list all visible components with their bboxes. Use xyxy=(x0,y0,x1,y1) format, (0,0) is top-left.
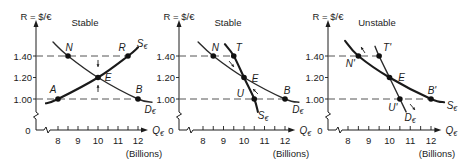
y-tick-label: 1.20 xyxy=(157,72,176,83)
x-axis-arrow-icon xyxy=(288,128,295,133)
panel-title: Stable xyxy=(72,17,99,28)
y-axis xyxy=(326,26,331,130)
x-unit-label: (Billions) xyxy=(419,148,455,159)
y-axis xyxy=(177,26,182,130)
y-tick-label: 1.40 xyxy=(157,51,176,62)
supply-curve-label: S€ xyxy=(137,38,149,50)
point-label: N' xyxy=(346,58,356,69)
x-axis-label-subscript: € xyxy=(453,129,458,136)
demand-curve-label-subscript: € xyxy=(300,108,305,115)
point-label: N xyxy=(65,42,73,53)
supply-curve-label-subscript: € xyxy=(264,114,269,121)
point-marker xyxy=(356,53,362,59)
supply-curve-label: S€ xyxy=(258,110,270,122)
panel-title: Unstable xyxy=(358,17,396,28)
x-axis-arrow-icon xyxy=(434,128,441,133)
y-tick-label: 1.20 xyxy=(306,72,325,83)
x-tick-label: 11 xyxy=(113,135,123,146)
chart-canvas: StableR = $/€Q€0(Billions)891011121.001.… xyxy=(0,0,471,167)
point-label: T' xyxy=(383,42,392,53)
y-axis-label: R = $/€ xyxy=(313,11,345,22)
point-label: B' xyxy=(428,85,438,96)
x-axis-label-subscript: € xyxy=(160,129,165,136)
y-tick-label: 1.00 xyxy=(306,94,325,105)
origin-label: 0 xyxy=(317,125,322,136)
panel-1: StableR = $/€Q€0(Billions)891011121.001.… xyxy=(14,11,165,159)
y-tick-label: 1.00 xyxy=(14,94,33,105)
direction-arrowhead-icon xyxy=(97,64,100,67)
x-axis-label-subscript: € xyxy=(307,129,312,136)
y-axis xyxy=(34,26,39,130)
point-label: R xyxy=(118,42,125,53)
point-label: E xyxy=(105,72,112,83)
demand-curve-label-main: D xyxy=(404,112,411,123)
point-marker xyxy=(65,53,71,59)
x-tick-label: 9 xyxy=(366,135,371,146)
point-label: U xyxy=(237,88,245,99)
x-tick-label: 12 xyxy=(426,135,437,146)
demand-curve-label: D€ xyxy=(404,112,416,124)
x-tick-label: 8 xyxy=(55,135,60,146)
origin-label: 0 xyxy=(25,125,30,136)
point-marker xyxy=(241,75,247,81)
point-marker xyxy=(210,53,216,59)
supply-curve-label: S€ xyxy=(447,100,459,112)
x-tick-label: 12 xyxy=(280,135,291,146)
demand-curve-label-subscript: € xyxy=(412,116,417,123)
x-tick-label: 11 xyxy=(260,135,270,146)
y-tick-label: 1.00 xyxy=(157,94,176,105)
x-tick-label: 11 xyxy=(405,135,415,146)
panel-title: Stable xyxy=(215,17,242,28)
demand-curve-label: D€ xyxy=(292,103,304,115)
point-label: A xyxy=(49,84,57,95)
supply-curve-label-subscript: € xyxy=(143,42,148,49)
x-tick-label: 9 xyxy=(221,135,226,146)
x-tick-label: 10 xyxy=(93,135,104,146)
point-marker xyxy=(387,75,393,81)
y-tick-label: 1.40 xyxy=(306,51,325,62)
direction-arrowhead-icon xyxy=(97,85,100,88)
y-axis-label: R = $/€ xyxy=(164,11,196,22)
point-label: T xyxy=(236,42,243,53)
x-axis xyxy=(179,127,290,133)
x-unit-label: (Billions) xyxy=(126,148,162,159)
point-marker xyxy=(231,53,237,59)
point-label: B xyxy=(284,85,291,96)
point-marker xyxy=(251,96,257,102)
panel-2: StableR = $/€Q€0(Billions)891011121.001.… xyxy=(157,11,313,159)
x-axis-arrow-icon xyxy=(141,128,148,133)
panel-3: UnstableR = $/€Q€0(Billions)891011121.00… xyxy=(306,11,459,159)
x-tick-label: 8 xyxy=(200,135,205,146)
x-tick-label: 10 xyxy=(384,135,395,146)
x-axis-label: Q€ xyxy=(446,125,459,137)
point-marker xyxy=(428,96,434,102)
point-marker xyxy=(95,75,101,81)
point-marker xyxy=(282,96,288,102)
point-label: B xyxy=(136,84,143,95)
point-marker xyxy=(55,96,61,102)
point-marker xyxy=(376,53,382,59)
x-tick-label: 10 xyxy=(239,135,250,146)
demand-curve-label-main: D xyxy=(144,103,151,114)
point-label: E xyxy=(252,73,259,84)
demand-curve-label-main: D xyxy=(292,103,299,114)
x-axis xyxy=(36,127,143,133)
point-label: N xyxy=(212,42,220,53)
origin-label: 0 xyxy=(168,125,173,136)
demand-curve-label: D€ xyxy=(144,103,156,115)
x-axis-label: Q€ xyxy=(299,125,312,137)
x-axis xyxy=(328,127,436,133)
x-axis-label: Q€ xyxy=(152,125,165,137)
x-tick-label: 8 xyxy=(345,135,350,146)
y-tick-label: 1.40 xyxy=(14,51,33,62)
x-tick-label: 12 xyxy=(133,135,144,146)
x-tick-label: 9 xyxy=(75,135,80,146)
supply-curve-label-subscript: € xyxy=(453,104,458,111)
demand-curve-label-subscript: € xyxy=(152,108,157,115)
point-label: E xyxy=(398,72,405,83)
y-axis-label: R = $/€ xyxy=(21,11,53,22)
point-marker xyxy=(397,96,403,102)
y-tick-label: 1.20 xyxy=(14,72,33,83)
point-marker xyxy=(125,53,131,59)
point-label: U' xyxy=(388,102,398,113)
